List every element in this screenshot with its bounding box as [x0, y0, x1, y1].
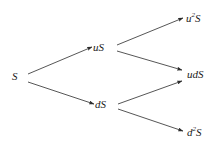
binomial-tree-diagram: S uS dS u2S udS d2S: [0, 0, 216, 152]
tree-edges-canvas: [0, 0, 216, 152]
node-label-up-down: udS: [187, 69, 204, 80]
edge-root-down: [28, 82, 94, 104]
node-label-root: S: [12, 71, 18, 82]
node-label-up: uS: [93, 42, 104, 53]
node-label-down-down: d2S: [187, 127, 202, 138]
node-label-up-up: u2S: [186, 13, 201, 24]
node-label-down: dS: [95, 99, 106, 110]
edge-up-updown: [117, 51, 182, 70]
edge-up-upup: [117, 18, 183, 45]
edge-down-updown: [118, 81, 182, 104]
edge-down-downdown: [118, 109, 183, 131]
edge-root-up: [28, 47, 92, 74]
